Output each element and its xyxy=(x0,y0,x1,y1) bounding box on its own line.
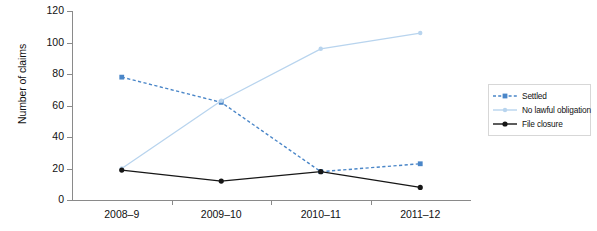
data-point xyxy=(219,99,223,103)
data-point xyxy=(219,179,224,184)
x-tick-label: 2009–10 xyxy=(201,208,242,220)
legend-swatch-icon xyxy=(492,118,518,130)
y-tick-label: 40 xyxy=(52,130,64,142)
plot-area: 020406080100120 2008–92009–102010–112011… xyxy=(72,11,470,200)
x-tick-mark xyxy=(371,200,372,205)
legend-label: Settled xyxy=(522,91,547,101)
series-line xyxy=(122,33,421,168)
y-tick-label: 20 xyxy=(52,162,64,174)
series-no-lawful-obligation xyxy=(120,31,423,171)
legend-item: Settled xyxy=(492,89,586,103)
x-tick-label: 2010–11 xyxy=(301,208,341,220)
series-line xyxy=(122,170,421,187)
data-point xyxy=(119,167,124,172)
legend-label: No lawful obligation xyxy=(522,105,591,115)
series-line xyxy=(122,77,421,171)
legend-item: File closure xyxy=(492,117,586,131)
chart-figure: Number of claims 020406080100120 2008–92… xyxy=(0,0,597,231)
series-lines xyxy=(72,11,470,200)
x-tick-mark xyxy=(172,200,173,205)
legend-label: File closure xyxy=(522,119,563,129)
legend-item: No lawful obligation xyxy=(492,103,586,117)
data-point xyxy=(418,185,423,190)
y-tick-label: 60 xyxy=(52,99,64,111)
data-point xyxy=(418,31,422,35)
y-axis-title: Number of claims xyxy=(16,24,28,144)
y-tick-label: 0 xyxy=(58,193,64,205)
x-tick-mark xyxy=(271,200,272,205)
data-point xyxy=(319,47,323,51)
chart-legend: SettledNo lawful obligationFile closure xyxy=(488,84,591,136)
data-point xyxy=(318,169,323,174)
data-point xyxy=(418,161,423,166)
x-tick-label: 2011–12 xyxy=(400,208,440,220)
legend-swatch-icon xyxy=(492,90,518,102)
y-tick-mark xyxy=(67,200,72,201)
series-file-closure xyxy=(119,167,423,190)
x-tick-label: 2008–9 xyxy=(104,208,139,220)
data-point xyxy=(119,75,124,80)
y-tick-label: 120 xyxy=(46,4,64,16)
legend-swatch-icon xyxy=(492,104,518,116)
y-tick-label: 80 xyxy=(52,67,64,79)
y-tick-label: 100 xyxy=(46,36,64,48)
series-settled xyxy=(119,75,422,174)
